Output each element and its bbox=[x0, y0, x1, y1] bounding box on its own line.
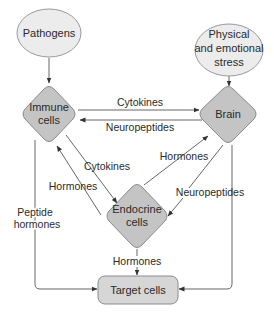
target-label: Target cells bbox=[110, 284, 166, 296]
endocrine-label-line2: cells bbox=[126, 216, 149, 228]
node-endocrine-cells: Endocrine cells bbox=[107, 185, 167, 248]
label-endocrine-to-target: Hormones bbox=[113, 255, 161, 267]
endocrine-label-line1: Endocrine bbox=[112, 203, 162, 215]
immune-label-line1: Immune bbox=[29, 101, 69, 113]
stress-label-line1: Physical bbox=[209, 28, 250, 40]
brain-label: Brain bbox=[215, 108, 241, 120]
label-endocrine-to-brain: Hormones bbox=[160, 150, 208, 162]
stress-label-line3: stress bbox=[214, 56, 244, 68]
label-peptide-hormones-line2: hormones bbox=[14, 218, 61, 230]
label-brain-to-endocrine: Neuropeptides bbox=[176, 186, 244, 198]
label-endocrine-to-immune: Hormones bbox=[49, 180, 97, 192]
node-immune-cells: Immune cells bbox=[23, 87, 75, 142]
arrow-brain-to-endocrine bbox=[168, 198, 183, 216]
node-brain: Brain bbox=[200, 87, 256, 143]
node-stress: Physical and emotional stress bbox=[194, 24, 263, 76]
label-immune-to-endocrine: Cytokines bbox=[84, 160, 130, 172]
label-peptide-hormones-line1: Peptide bbox=[17, 206, 53, 218]
pathogens-label: Pathogens bbox=[23, 27, 76, 39]
label-immune-to-brain: Cytokines bbox=[117, 96, 163, 108]
stress-immune-diagram: Pathogens Physical and emotional stress … bbox=[0, 0, 274, 322]
stress-label-line2: and emotional bbox=[194, 42, 263, 54]
immune-label-line2: cells bbox=[38, 114, 61, 126]
node-pathogens: Pathogens bbox=[17, 9, 81, 57]
node-target-cells: Target cells bbox=[98, 276, 178, 304]
label-brain-to-immune: Neuropeptides bbox=[106, 121, 174, 133]
